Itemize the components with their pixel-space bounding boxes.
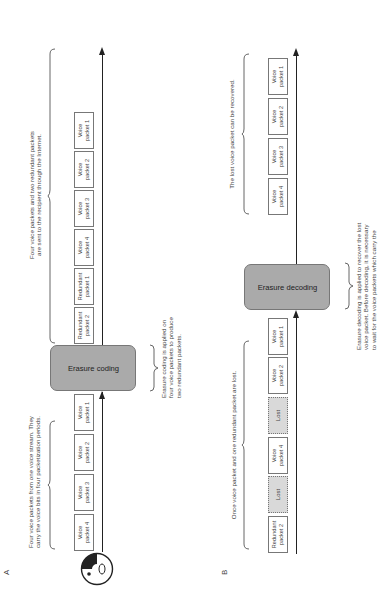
packet-a-out-2: Redundantpacket 1 — [74, 268, 94, 305]
packet-b-out-4: Voicepacket 1 — [268, 58, 288, 95]
arrow-b-input-head — [293, 310, 299, 318]
packet-a-in-3: Voicepacket 2 — [74, 434, 94, 471]
packet-a-in-4: Voicepacket 1 — [74, 394, 94, 431]
caption-input-a: Four voice packets from one voice stream… — [27, 416, 42, 548]
panel-a-label: A — [2, 570, 11, 575]
caption-output-a: Four voice packets and two redundant pac… — [28, 60, 43, 330]
brace-input-b — [242, 340, 250, 550]
arrow-b-output-line — [296, 52, 297, 264]
arrow-b-output-head — [293, 48, 299, 56]
brace-output-a — [48, 48, 56, 344]
erasure-decoding-box: Erasure decoding — [244, 264, 330, 310]
caption-coding: Erasure coding is applied on four voice … — [160, 317, 182, 398]
packet-a-in-1: Voicepacket 4 — [74, 514, 94, 551]
panel-b-label: B — [220, 570, 229, 575]
arrow-b-input-line — [296, 314, 297, 554]
brace-input-a — [48, 420, 56, 550]
packet-a-out-3: Voicepacket 4 — [74, 229, 94, 266]
erasure-coding-box: Erasure coding — [50, 345, 136, 391]
packet-b-in-lost-1: Lost — [268, 476, 288, 513]
packet-b-in-6: Voicepacket 1 — [268, 318, 288, 355]
rotated-diagram: A Four voice packets from one voice stre… — [0, 0, 386, 600]
packet-b-in-3: Voicepacket 4 — [268, 437, 288, 474]
packet-a-out-4: Voicepacket 3 — [74, 190, 94, 227]
packet-b-in-lost-2: Lost — [268, 397, 288, 434]
packet-a-out-6: Voicepacket 1 — [74, 112, 94, 149]
arrow-a-output-head — [99, 47, 105, 55]
arrow-a-input-head — [99, 391, 105, 399]
brace-output-b — [242, 53, 250, 215]
caption-output-b: The lost voice packet can be recovered. — [228, 53, 235, 215]
packet-a-in-2: Voicepacket 3 — [74, 474, 94, 511]
packet-a-out-1: Redundantpacket 2 — [74, 307, 94, 344]
packet-b-out-2: Voicepacket 3 — [268, 138, 288, 175]
caption-input-b: Once voice packet and one redundant pack… — [230, 340, 237, 550]
packet-a-out-5: Voicepacket 2 — [74, 151, 94, 188]
packet-b-in-1: Redundantpacket 2 — [268, 516, 288, 553]
face-icon — [80, 552, 114, 586]
arrow-a-input-line — [102, 392, 103, 552]
brace-coding — [150, 344, 158, 392]
packet-b-out-1: Voicepacket 4 — [268, 178, 288, 215]
packet-b-in-5: Voicepacket 2 — [268, 357, 288, 394]
caption-decoding: Erasure decoding is applied to recover t… — [355, 223, 377, 350]
brace-decoding — [345, 262, 353, 310]
arrow-a-output-line — [102, 51, 103, 345]
packet-b-out-3: Voicepacket 2 — [268, 98, 288, 135]
